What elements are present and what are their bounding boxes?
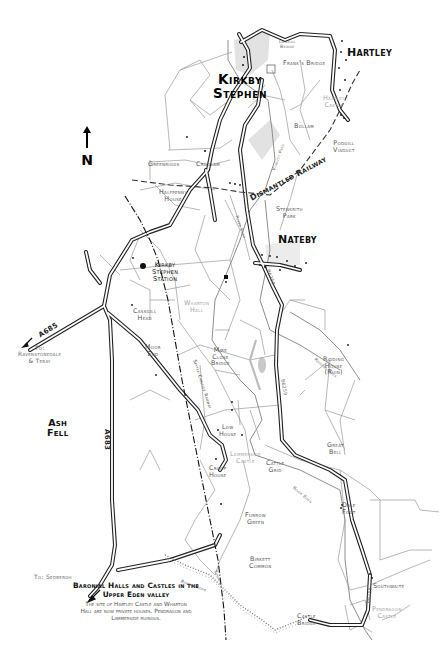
road-cassgill — [86, 252, 100, 283]
place-cassgill-head: CassgillHead — [133, 308, 156, 321]
place-great-bell: GreatBell — [327, 442, 344, 455]
place-kirkby-stephen-station: KirkbyStephenStation — [152, 262, 178, 283]
station-marker — [140, 263, 146, 269]
river-eden — [212, 40, 372, 640]
caption-body: The site of Hartley Castle and Wharton H… — [56, 601, 216, 623]
place-lowgill-bridge: LowgillBridge — [279, 40, 296, 50]
place-croop-house: CroopHouse — [209, 465, 226, 478]
destination-arrows — [23, 338, 100, 602]
ash-fell-label: Ash Fell — [47, 418, 68, 438]
town-nateby: Nateby — [278, 234, 317, 246]
caption-title: Baronial Halls and Castles in the Upper … — [56, 582, 216, 600]
place-moor-end: MoorEnd — [145, 344, 161, 357]
place-cattle-grid: CattleGrid — [266, 460, 284, 473]
wharton-hall-marker — [224, 275, 228, 279]
place-croglam: Croglam — [196, 161, 220, 168]
place-bollam: Bollam — [294, 123, 314, 130]
place-stenkrith-park: StenkrithPark — [276, 206, 303, 219]
place-southwaite: Southwaite — [373, 583, 404, 590]
ash-fell-line2: Fell — [47, 427, 68, 438]
place-castle-bridge: CastleBridge — [297, 613, 316, 626]
north-arrow-icon — [80, 126, 94, 148]
caption-title-line2: Upper Eden valley — [103, 590, 170, 599]
road-b6259 — [240, 80, 370, 625]
place-birkett-common: BirkettCommon — [249, 556, 271, 569]
main-roads — [30, 30, 370, 625]
heritage-hartley-castle: HartleyCastle — [323, 95, 345, 108]
north-arrow: N — [80, 126, 94, 168]
place-dale-foot: DaleFoot — [342, 502, 356, 515]
destination-ravenstonedale: To:Ravenstonedale& Tebay — [18, 345, 61, 364]
town-kirkby-stephen: Kirkby Stephen — [213, 72, 267, 100]
town-hartley: Hartley — [347, 47, 392, 59]
heritage-lammerside-castle: LammersideCastle — [230, 451, 261, 464]
town-kirkby-line2: Stephen — [213, 85, 267, 101]
destination-sedbergh: To: Sedbergh — [34, 574, 72, 580]
place-podgill-viaduct: PodgillViaduct — [333, 140, 355, 153]
place-franks-bridge: Frank's Bridge — [283, 60, 325, 67]
north-label: N — [80, 152, 94, 168]
franks-bridge-marker — [267, 65, 275, 73]
heritage-pendragon-castle: PendragonCastle — [372, 606, 402, 619]
place-greenriggs: Greenriggs — [148, 161, 179, 168]
place-mire-close-bridge: MireCloseBridge — [211, 347, 230, 367]
caption-title-line1: Baronial Halls and Castles in the — [73, 581, 199, 590]
heritage-wharton-hall: WhartonHall — [184, 300, 209, 313]
rivers — [212, 40, 372, 640]
map-caption: Baronial Halls and Castles in the Upper … — [56, 582, 216, 622]
label-road-a683: A683 — [103, 429, 110, 450]
place-low-house: LowHouse — [219, 424, 236, 437]
place-furrow-green: FurrowGreen — [245, 512, 266, 525]
road-a685-lower — [108, 313, 226, 470]
place-halfpenny-house: HalfpennyHouse — [159, 189, 187, 202]
